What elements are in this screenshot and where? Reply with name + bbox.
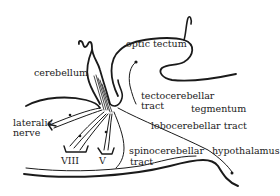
ventral-curve-thin [26, 156, 196, 171]
label-cerebellum: cerebellum [34, 67, 88, 78]
label-spinocerebellar-1: spinocerebellar [129, 145, 204, 156]
label-nerve-viii: VIII [61, 155, 79, 166]
label-tegmentum: tegmentum [191, 103, 246, 114]
label-spinocerebellar-2: tract [130, 156, 153, 167]
dorsal-curve-left [26, 98, 100, 108]
label-lateralis-2: nerve [13, 127, 40, 138]
cerebellum-left-edge [87, 50, 100, 104]
label-nerve-v: V [99, 155, 106, 166]
nerve-viii-end [64, 146, 88, 152]
label-lobocerebellar: lobocerebellar tract [151, 120, 247, 131]
label-hypothalamus: hypothalamus [212, 145, 280, 156]
cerebellar-connections-diagram: optic tectum cerebellum tectocerebellar … [0, 0, 280, 196]
label-tectocerebellar-2: tract [141, 100, 164, 111]
hypothalamus-dot [231, 172, 234, 175]
label-optic-tectum: optic tectum [126, 38, 187, 49]
tectum-top-wave [184, 17, 191, 40]
nerve-v-end [98, 148, 114, 154]
spinocerebellar-tract-line [114, 112, 124, 168]
tectocerebellar-dot [134, 60, 137, 63]
tectocerebellar-tract-line [129, 62, 136, 104]
